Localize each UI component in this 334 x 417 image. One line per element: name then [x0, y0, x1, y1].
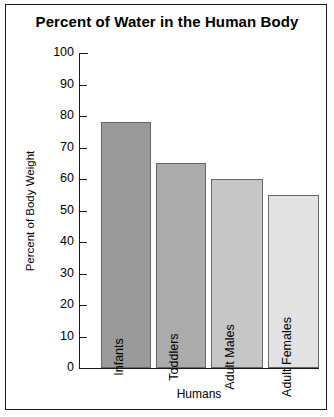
y-tick-label: 80 [34, 108, 74, 123]
y-tick-mark [79, 179, 87, 180]
bar[interactable]: Infants [101, 122, 151, 368]
y-tick-mark [79, 85, 87, 86]
y-tick-mark [79, 53, 87, 54]
bar-column: Infants [101, 53, 151, 368]
y-tick-mark [79, 274, 87, 275]
y-tick-mark [79, 116, 87, 117]
y-tick-mark [79, 305, 87, 306]
bar[interactable]: Adult Males [211, 179, 263, 368]
y-tick-label: 70 [34, 140, 74, 155]
y-tick-label: 0 [34, 360, 74, 375]
y-tick-mark [79, 337, 87, 338]
bar-label: Adult Females [280, 317, 294, 397]
y-tick-label: 60 [34, 171, 74, 186]
bar-label: Infants [112, 338, 126, 376]
y-tick-label: 30 [34, 266, 74, 281]
bar-column: Adult Females [268, 53, 319, 368]
y-tick-label: 100 [34, 45, 74, 60]
y-tick-mark [79, 242, 87, 243]
y-tick-label: 90 [34, 77, 74, 92]
bar[interactable]: Adult Females [268, 195, 319, 368]
y-tick-mark [79, 211, 87, 212]
y-tick-mark [79, 368, 87, 369]
bar-label: Toddlers [167, 333, 181, 380]
y-tick-label: 40 [34, 234, 74, 249]
bar[interactable]: Toddlers [156, 163, 206, 368]
bar-label: Adult Males [223, 324, 237, 389]
plot-area: 1009080706050403020100 Percent of Body W… [6, 5, 328, 411]
bar-column: Toddlers [156, 53, 206, 368]
y-tick-label: 10 [34, 329, 74, 344]
y-tick-mark [79, 148, 87, 149]
y-axis-title: Percent of Body Weight [24, 121, 36, 301]
y-tick-label: 20 [34, 297, 74, 312]
chart-figure: Percent of Water in the Human Body 10090… [5, 4, 327, 410]
y-tick-label: 50 [34, 203, 74, 218]
bar-column: Adult Males [211, 53, 263, 368]
x-axis-title: Humans [79, 387, 319, 401]
